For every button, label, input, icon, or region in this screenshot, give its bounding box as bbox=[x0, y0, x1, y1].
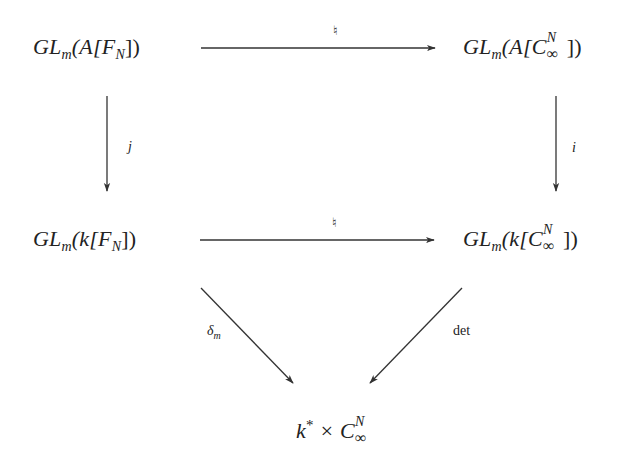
node-subscript: N bbox=[115, 47, 125, 62]
node-text: × C bbox=[314, 418, 355, 443]
node-supsub: N∞ bbox=[543, 236, 563, 246]
node-top-left: GLm(A[FN]) bbox=[33, 36, 140, 58]
node-subscript: m bbox=[492, 239, 502, 254]
node-text: (k[C bbox=[502, 226, 543, 251]
label-top-natural: ♮ bbox=[333, 24, 338, 37]
label-mid-natural: ♮ bbox=[332, 216, 337, 229]
node-mid-left: GLm(k[FN]) bbox=[33, 228, 136, 250]
node-subscript: m bbox=[62, 47, 72, 62]
label-j: j bbox=[128, 140, 132, 154]
node-text: GL bbox=[33, 34, 62, 59]
node-text: (A[F bbox=[72, 34, 116, 59]
node-subscript: N bbox=[112, 239, 122, 254]
node-top-right: GLm(A[CN∞]) bbox=[463, 36, 582, 58]
node-text: ]) bbox=[125, 34, 140, 59]
node-text: ]) bbox=[121, 226, 136, 251]
node-text: ]) bbox=[567, 34, 582, 59]
infinity-symbol: ∞ bbox=[355, 430, 367, 446]
infinity-symbol: ∞ bbox=[547, 46, 559, 62]
node-text: k bbox=[296, 418, 306, 443]
node-supsub: N∞ bbox=[355, 428, 375, 438]
label-subscript: m bbox=[214, 330, 221, 341]
node-bottom: k* × CN∞ bbox=[296, 420, 375, 442]
label-i: i bbox=[572, 141, 576, 155]
node-supsub: N∞ bbox=[547, 44, 567, 54]
node-text: (k[F bbox=[72, 226, 112, 251]
label-det: det bbox=[453, 324, 470, 338]
node-text: GL bbox=[33, 226, 62, 251]
node-mid-right: GLm(k[CN∞]) bbox=[463, 228, 578, 250]
node-superscript: N bbox=[543, 223, 553, 237]
label-delta-m: δm bbox=[207, 324, 221, 341]
arrow-diag-right bbox=[370, 288, 462, 383]
node-superscript: N bbox=[355, 415, 365, 429]
node-text: ]) bbox=[563, 226, 578, 251]
node-subscript: m bbox=[492, 47, 502, 62]
node-text: GL bbox=[463, 34, 492, 59]
infinity-symbol: ∞ bbox=[543, 238, 555, 254]
node-text: GL bbox=[463, 226, 492, 251]
node-superscript: * bbox=[306, 417, 314, 433]
node-subscript: m bbox=[62, 239, 72, 254]
node-text: (A[C bbox=[502, 34, 547, 59]
node-superscript: N bbox=[547, 31, 557, 45]
